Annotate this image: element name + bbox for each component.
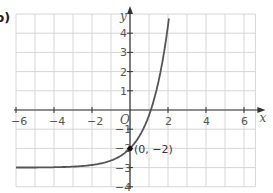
point-label: (0, −2) bbox=[134, 143, 173, 156]
y-axis-label: y bbox=[119, 9, 127, 23]
y-tick-label: 4 bbox=[120, 27, 127, 40]
x-tick-label: −4 bbox=[49, 115, 65, 128]
grid bbox=[16, 14, 255, 187]
point-marker bbox=[128, 146, 133, 151]
x-tick-label: 6 bbox=[241, 115, 248, 128]
x-axis-label: x bbox=[259, 111, 266, 125]
y-tick-label: 1 bbox=[120, 85, 127, 98]
origin-label: O bbox=[120, 113, 130, 127]
x-tick-label: 4 bbox=[203, 115, 210, 128]
x-tick-label: 2 bbox=[165, 115, 172, 128]
y-tick-label: −3 bbox=[115, 162, 131, 175]
chart-canvas: −6−4−22464321−1−2−3−4xyO (0, −2) bbox=[0, 0, 273, 193]
x-tick-label: −6 bbox=[11, 115, 27, 128]
y-axis-arrow-icon bbox=[127, 6, 133, 14]
annotations: (0, −2) bbox=[128, 143, 173, 156]
y-tick-label: 2 bbox=[120, 66, 127, 79]
tick-labels: −6−4−22464321−1−2−3−4xyO bbox=[11, 9, 266, 193]
y-tick-label: −4 bbox=[115, 181, 131, 193]
x-tick-label: −2 bbox=[87, 115, 103, 128]
y-tick-label: 3 bbox=[120, 46, 127, 59]
